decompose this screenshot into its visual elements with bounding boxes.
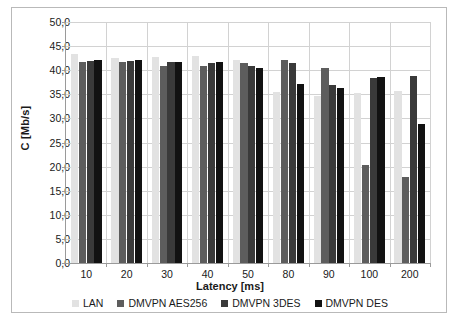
x-axis-tick-mark <box>309 263 310 267</box>
x-axis-title: Latency [ms] <box>12 280 448 292</box>
bar <box>418 124 425 263</box>
x-axis-tick-mark <box>349 263 350 267</box>
bar-group <box>309 22 349 263</box>
bar <box>410 76 417 263</box>
bar <box>281 60 288 263</box>
legend-label: DMVPN AES256 <box>128 297 207 309</box>
bar <box>192 56 199 263</box>
bar <box>160 66 167 263</box>
bar-group <box>390 22 430 263</box>
bar <box>289 63 296 263</box>
bar <box>94 60 101 263</box>
x-axis-tick-mark <box>147 263 148 267</box>
bar-group <box>147 22 187 263</box>
bar <box>240 63 247 264</box>
legend-item[interactable]: DMVPN DES <box>315 297 388 309</box>
bar <box>208 63 215 264</box>
bar <box>87 61 94 263</box>
legend-label: LAN <box>83 297 103 309</box>
bar-group <box>268 22 308 263</box>
bar <box>119 62 126 263</box>
bar <box>362 165 369 263</box>
x-axis-tick-mark <box>106 263 107 267</box>
bar <box>216 62 223 263</box>
legend-label: DMVPN 3DES <box>232 297 300 309</box>
bar <box>337 88 344 263</box>
legend-swatch-icon <box>72 300 79 307</box>
bar-group <box>66 22 106 263</box>
bar <box>135 60 142 263</box>
bar <box>377 77 384 263</box>
bar <box>273 92 280 263</box>
bar <box>370 78 377 263</box>
bar <box>354 93 361 263</box>
plot-area: 10203040508090100200 <box>65 22 430 264</box>
bar <box>111 58 118 263</box>
gridline-vertical <box>430 22 431 263</box>
bar <box>329 85 336 263</box>
x-axis-tick-mark <box>228 263 229 267</box>
bar <box>175 62 182 263</box>
bar <box>167 62 174 263</box>
bar <box>394 91 401 263</box>
chart-legend: LANDMVPN AES256DMVPN 3DESDMVPN DES <box>12 297 448 309</box>
bar <box>321 68 328 263</box>
bar <box>233 60 240 263</box>
bar-group <box>187 22 227 263</box>
bar <box>71 54 78 263</box>
y-axis-tick-mark <box>62 263 66 264</box>
bar <box>256 68 263 263</box>
legend-item[interactable]: DMVPN 3DES <box>221 297 300 309</box>
x-axis-tick-mark <box>268 263 269 267</box>
bar <box>297 84 304 263</box>
bar-group <box>106 22 146 263</box>
bar <box>127 61 134 263</box>
bar <box>79 62 86 263</box>
bar <box>248 66 255 263</box>
chart-frame: C [Mb/s] 0,05,010,015,020,025,030,035,04… <box>11 7 447 313</box>
chart-plot-wrapper: C [Mb/s] 0,05,010,015,020,025,030,035,04… <box>12 8 448 314</box>
bar <box>402 177 409 263</box>
bar-group <box>228 22 268 263</box>
legend-item[interactable]: LAN <box>72 297 103 309</box>
x-axis-tick-mark <box>430 263 431 267</box>
bar-group <box>349 22 389 263</box>
x-axis-tick-mark <box>390 263 391 267</box>
bar <box>314 96 321 263</box>
bar <box>200 66 207 263</box>
x-axis-tick-mark <box>187 263 188 267</box>
x-axis-tick-label: 200 <box>386 268 434 280</box>
legend-swatch-icon <box>117 300 124 307</box>
bar <box>152 57 159 263</box>
legend-label: DMVPN DES <box>326 297 388 309</box>
legend-swatch-icon <box>315 300 322 307</box>
legend-swatch-icon <box>221 300 228 307</box>
legend-item[interactable]: DMVPN AES256 <box>117 297 207 309</box>
